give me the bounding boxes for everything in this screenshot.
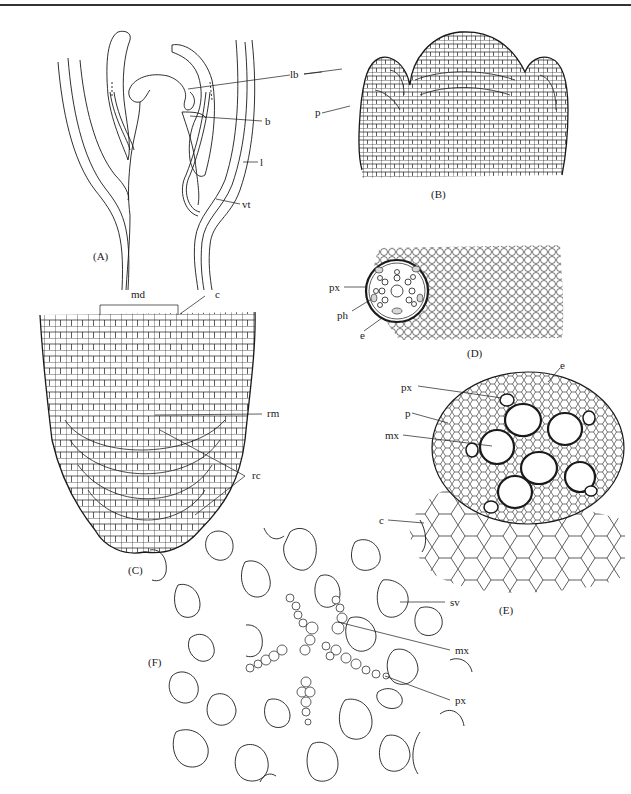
label-c: c — [215, 289, 220, 300]
label-l: l — [260, 157, 263, 168]
label-p: p — [315, 107, 321, 118]
caption-f: (F) — [148, 657, 161, 668]
caption-d: (D) — [467, 348, 482, 359]
label-ph: ph — [337, 310, 348, 321]
caption-a: (A) — [93, 251, 108, 262]
label-e: e — [360, 330, 365, 341]
panel-a: lb b l vt (A) — [0, 0, 300, 290]
label-sv: sv — [450, 597, 460, 608]
caption-e: (E) — [499, 605, 513, 616]
polyarch-stele-drawing — [150, 500, 490, 794]
label-md: md — [131, 289, 145, 300]
panel-d: px ph e (D) — [300, 240, 631, 360]
label-px: px — [329, 282, 340, 293]
label-px: px — [455, 695, 466, 706]
label-rc: rc — [252, 470, 261, 481]
root-cross-section-overview-drawing — [300, 240, 631, 360]
label-e: e — [560, 360, 565, 371]
caption-b: (B) — [431, 189, 446, 200]
shoot-apex-outline-drawing — [0, 0, 300, 290]
caption-c: (C) — [128, 565, 143, 576]
label-mx: mx — [385, 430, 399, 441]
shoot-meristem-cell-drawing — [300, 0, 631, 240]
label-b: b — [265, 116, 271, 127]
label-mx: mx — [455, 645, 469, 656]
panel-b: p (B) — [300, 0, 631, 240]
label-p: p — [405, 408, 411, 419]
label-lb: lb — [290, 69, 299, 80]
label-px: px — [401, 382, 412, 393]
panel-f: sv mx px (F) — [150, 500, 490, 794]
label-vt: vt — [242, 199, 251, 210]
label-rm: rm — [267, 408, 279, 419]
